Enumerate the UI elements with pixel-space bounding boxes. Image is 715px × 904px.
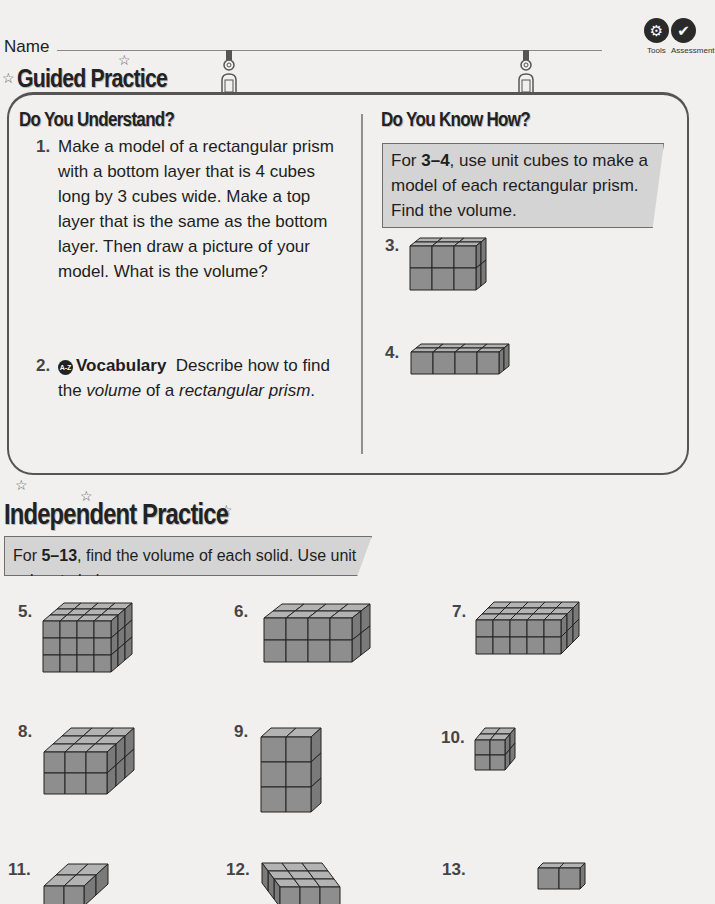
problem-number: 6.	[234, 602, 248, 622]
question-number: 1.	[36, 134, 50, 159]
prism-figure-11	[44, 864, 104, 904]
question-text: Make a model of a rectangular prism with…	[58, 134, 344, 284]
instruction-range: 5–13	[41, 547, 77, 564]
column-divider	[361, 114, 363, 454]
instruction-text: For	[13, 547, 41, 564]
do-you-know-how-title: Do You Know How?	[381, 108, 530, 131]
do-you-understand-title: Do You Understand?	[19, 108, 174, 131]
prism-figure-3	[410, 238, 493, 300]
prism-figure-8	[44, 728, 136, 798]
star-icon: ☆	[15, 477, 28, 493]
problem-number: 5.	[18, 602, 32, 622]
problem-number: 8.	[18, 722, 32, 742]
star-icon: ☆	[2, 70, 15, 86]
prism-figure-7	[476, 602, 580, 664]
independent-practice-title: Independent Practice	[4, 498, 228, 531]
instruction-box: For 3–4, use unit cubes to make a model …	[382, 143, 664, 228]
assessment-label: Assessment	[671, 46, 715, 55]
instruction-box: For 5–13, find the volume of each solid.…	[4, 536, 372, 576]
prism-figure-10	[475, 728, 520, 773]
question-1: 1. Make a model of a rectangular prism w…	[36, 134, 344, 284]
vocabulary-label: Vocabulary	[76, 356, 166, 375]
assessment-icon[interactable]: ✔	[671, 18, 696, 43]
prism-figure-4	[411, 344, 516, 386]
prism-figure-9	[261, 728, 321, 810]
question-2: 2. A-ZVocabulary Describe how to find th…	[36, 353, 336, 403]
problem-number: 12.	[226, 860, 250, 880]
tools-icon[interactable]: ⚙	[644, 18, 669, 43]
problem-number: 7.	[452, 602, 466, 622]
guided-practice-title: Guided Practice	[17, 63, 167, 94]
problem-number: 3.	[385, 236, 399, 256]
term-rectangular-prism: rectangular prism	[179, 381, 310, 400]
problem-number: 11.	[8, 860, 31, 880]
prism-figure-13	[538, 863, 588, 903]
binder-clip-icon	[516, 50, 536, 92]
prism-figure-5	[43, 603, 135, 683]
header-icons: ⚙ ✔ Tools Assessment	[644, 18, 704, 64]
question-number: 2.	[36, 353, 50, 378]
problem-number: 10.	[441, 728, 465, 748]
vocabulary-az-icon: A-Z	[58, 360, 73, 375]
problem-number: 13.	[442, 860, 466, 880]
question-text: .	[310, 381, 315, 400]
instruction-text: For	[391, 151, 421, 170]
prism-figure-12	[262, 863, 342, 903]
problem-number: 9.	[234, 722, 248, 742]
problem-number: 4.	[385, 343, 399, 363]
instruction-range: 3–4	[421, 151, 449, 170]
tools-label: Tools	[647, 46, 666, 55]
term-volume: volume	[86, 381, 141, 400]
question-text: of a	[141, 381, 179, 400]
name-label: Name	[4, 37, 49, 57]
prism-figure-6	[264, 604, 361, 674]
binder-clip-icon	[219, 50, 239, 92]
